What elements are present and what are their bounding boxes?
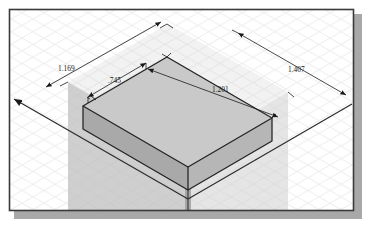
dimension-label-1-407: 1.407 xyxy=(288,65,305,74)
dimension-label-0-745: .745 xyxy=(108,76,121,85)
cad-canvas: 1.169 .745 1.201 1.407 xyxy=(0,0,371,228)
cad-screenshot: 1.169 .745 1.201 1.407 xyxy=(0,0,371,228)
dimension-label-1-201: 1.201 xyxy=(212,85,229,94)
dimension-label-1-169: 1.169 xyxy=(58,64,75,73)
